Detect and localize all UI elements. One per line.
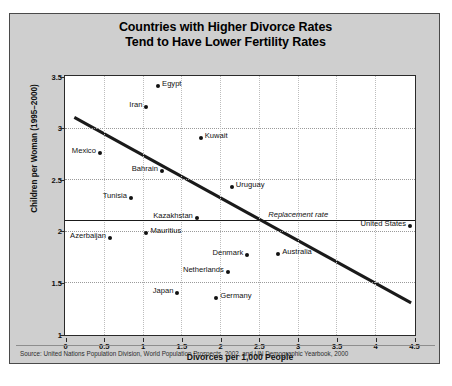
data-point[interactable]: [276, 252, 280, 256]
gridline-vertical: [143, 76, 144, 335]
data-point-label: Bahrain: [132, 165, 158, 173]
x-axis-tick-mark: [221, 338, 222, 342]
data-point-label: United States: [361, 220, 407, 228]
x-axis-tick-mark: [182, 338, 183, 342]
data-point-label: Denmark: [212, 249, 243, 257]
data-point-label: Australia: [282, 248, 312, 256]
x-axis-tick-mark: [415, 338, 416, 342]
gridline-horizontal: [65, 231, 415, 232]
data-point[interactable]: [175, 291, 179, 295]
gridline-vertical: [104, 76, 105, 335]
chart-title-line-2: Tend to Have Lower Fertility Rates: [10, 35, 441, 50]
gridline-horizontal: [65, 128, 415, 129]
replacement-rate-label: Replacement rate: [268, 210, 328, 219]
gridline-vertical: [336, 76, 337, 335]
plot-area: Replacement rateEgyptIranKuwaitMexicoBah…: [64, 75, 416, 336]
chart-title-line-1: Countries with Higher Divorce Rates: [10, 20, 441, 35]
data-point-label: Netherlands: [183, 266, 224, 274]
x-axis-tick-mark: [259, 338, 260, 342]
chart-figure: Countries with Higher Divorce Rates Tend…: [9, 13, 440, 364]
y-axis-tick-labels: 11.522.533.5: [40, 75, 62, 336]
data-point[interactable]: [156, 84, 160, 88]
data-point[interactable]: [129, 196, 133, 200]
source-divider: [16, 345, 435, 346]
x-axis-tick-mark: [143, 338, 144, 342]
data-point-label: Mauritius: [150, 227, 181, 235]
y-axis-title: Children per Woman (1995–2000): [30, 59, 39, 239]
data-point[interactable]: [160, 169, 164, 173]
x-axis-tick-mark: [376, 338, 377, 342]
data-point-label: Kuwait: [205, 132, 228, 140]
gridline-vertical: [298, 76, 299, 335]
data-point-label: Mexico: [72, 147, 96, 155]
data-point[interactable]: [245, 253, 249, 257]
data-point[interactable]: [199, 136, 203, 140]
data-point-label: Uruguay: [236, 181, 265, 189]
plot-inner: Replacement rateEgyptIranKuwaitMexicoBah…: [65, 76, 415, 335]
chart-title: Countries with Higher Divorce Rates Tend…: [10, 20, 441, 50]
data-point[interactable]: [144, 231, 148, 235]
x-axis-tick-mark: [298, 338, 299, 342]
x-axis-tick-mark: [66, 338, 67, 342]
data-point-label: Japan: [153, 287, 174, 295]
data-point-label: Germany: [220, 292, 251, 300]
x-axis-tick-mark: [337, 338, 338, 342]
data-point[interactable]: [230, 185, 234, 189]
gridline-vertical: [375, 76, 376, 335]
data-point[interactable]: [408, 224, 412, 228]
data-point[interactable]: [108, 236, 112, 240]
data-point[interactable]: [98, 151, 102, 155]
data-point[interactable]: [214, 296, 218, 300]
data-point[interactable]: [195, 216, 199, 220]
data-point-label: Tunisia: [103, 192, 127, 200]
data-point[interactable]: [226, 270, 230, 274]
data-point-label: Kazakhstan: [153, 212, 193, 220]
data-point-label: Egypt: [162, 80, 181, 88]
x-axis-tick-mark: [104, 338, 105, 342]
data-point[interactable]: [144, 105, 148, 109]
source-note: Source: United Nations Population Divisi…: [20, 350, 435, 357]
data-point-label: Iran: [129, 101, 142, 109]
gridline-horizontal: [65, 282, 415, 283]
data-point-label: Azerbaijan: [70, 232, 106, 240]
gridline-vertical: [259, 76, 260, 335]
gridline-vertical: [181, 76, 182, 335]
